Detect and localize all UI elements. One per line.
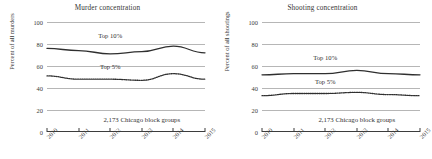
y-tick-label: 0 xyxy=(255,129,258,136)
plot-area: 020406080100201020112012201320142015Top … xyxy=(262,22,420,132)
panel-shooting-concentration: Shooting concentration Percent of all sh… xyxy=(215,0,430,159)
y-axis-label: Percent of all murders xyxy=(8,0,15,90)
panel-title: Murder concentration xyxy=(0,4,215,12)
panel-title: Shooting concentration xyxy=(215,4,430,12)
y-tick-label: 80 xyxy=(37,41,43,48)
y-tick-label: 100 xyxy=(248,19,258,26)
annotation-top-10: Top 10% xyxy=(313,54,337,61)
plot-area: 020406080100201020112012201320142015Top … xyxy=(47,22,205,132)
y-tick-label: 100 xyxy=(33,19,43,26)
y-tick-label: 0 xyxy=(40,129,43,136)
panel-murder-concentration: Murder concentration Percent of all murd… xyxy=(0,0,215,159)
series-line-top-5 xyxy=(262,92,420,95)
y-tick-label: 80 xyxy=(252,41,258,48)
y-axis-label: Percent of all shootings xyxy=(223,0,230,90)
y-tick-label: 40 xyxy=(37,85,43,92)
series-line-top-10 xyxy=(47,46,205,54)
y-tick-label: 20 xyxy=(252,107,258,114)
y-tick-label: 40 xyxy=(252,85,258,92)
y-tick-label: 20 xyxy=(37,107,43,114)
series-line-top-5 xyxy=(47,74,205,81)
series-line-top-10 xyxy=(262,70,420,74)
annotation-top-10: Top 10% xyxy=(98,32,122,39)
annotation-top-5: Top 5% xyxy=(315,78,336,85)
annotation-top-5: Top 5% xyxy=(100,63,121,70)
annotation-block-groups: 2,173 Chicago block groups xyxy=(103,116,180,123)
annotation-block-groups: 2,173 Chicago block groups xyxy=(318,116,395,123)
y-tick-label: 60 xyxy=(37,63,43,70)
y-tick-label: 60 xyxy=(252,63,258,70)
